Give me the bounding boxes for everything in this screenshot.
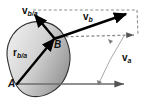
label-v-b-over-a: vb/a [22,6,38,16]
label-point-b: B [54,40,61,50]
label-v-a: va [122,53,131,63]
kinematics-vector-diagram: vb/a vb va rb/a A B [0,0,144,103]
thin-leg-upper-arrowhead [108,39,113,44]
label-v-a-base: v [122,52,128,63]
label-v-b: vb [83,12,93,22]
label-r-b-over-a-sub: b/a [17,52,27,59]
label-v-b-over-a-base: v [22,5,28,16]
label-point-a: A [8,79,15,89]
point-a-marker [16,83,18,85]
thin-leg-lower [99,60,110,83]
label-v-a-sub: a [128,57,132,64]
dashed-right-closing [137,10,138,35]
label-v-b-base: v [83,11,89,22]
label-v-b-sub: b [89,16,93,23]
label-v-b-over-a-sub: b/a [28,10,38,17]
label-r-b-over-a: rb/a [13,48,27,58]
